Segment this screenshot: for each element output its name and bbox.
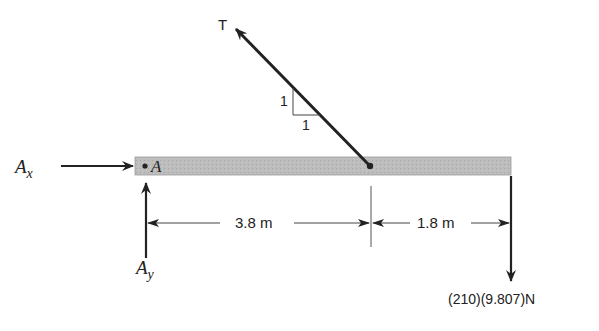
ax-label: Ax (15, 157, 33, 181)
ax-label-main: A (15, 156, 27, 177)
point-a-dot (142, 163, 147, 168)
beam (135, 157, 511, 175)
ay-label-main: A (136, 257, 148, 278)
slope-rise-label: 1 (280, 94, 288, 108)
ay-label: Ay (136, 258, 154, 282)
dimension-right-label: 1.8 m (417, 215, 455, 230)
dimension-left-label: 3.8 m (235, 215, 273, 230)
diagram-canvas (0, 0, 599, 331)
ax-label-sub: x (27, 166, 33, 181)
tension-attach-point (367, 163, 373, 169)
slope-run-label: 1 (302, 118, 310, 132)
point-a-label: A (151, 158, 161, 175)
tension-arrow (236, 29, 370, 166)
ay-label-sub: y (148, 267, 154, 282)
tension-label: T (218, 17, 227, 32)
weight-label: (210)(9.807)N (448, 292, 535, 306)
